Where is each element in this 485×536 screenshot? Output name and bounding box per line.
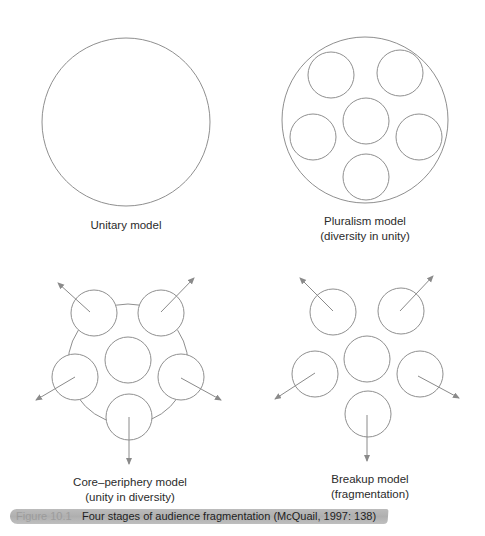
fragment-circle [378,288,424,334]
pluralism-subgroup-circle [308,52,354,98]
fragment-circle [344,336,390,382]
unitary-model-diagram [42,38,210,206]
core-periphery-model-label: Core–periphery model (unity in diversity… [60,475,200,505]
periphery-circle [158,354,204,400]
breakup-model-subtitle: (fragmentation) [310,487,430,502]
pluralism-subgroup-circle [343,154,389,200]
arrow-icon [275,373,315,399]
core-circle [105,337,151,383]
breakup-model-label: Breakup model (fragmentation) [310,472,430,502]
unitary-circle [42,38,210,206]
pluralism-model-title: Pluralism model [305,214,425,229]
fragment-circle [292,351,338,397]
fragment-circle [310,289,356,335]
arrow-icon [418,376,459,398]
arrow-icon [400,276,433,311]
pluralism-model-subtitle: (diversity in unity) [305,229,425,244]
pluralism-model-diagram [282,37,448,203]
audience-fragmentation-diagram [0,0,485,536]
core-periphery-model-title: Core–periphery model [60,475,200,490]
periphery-circle [71,290,117,336]
periphery-circle [138,290,184,336]
arrow-icon [300,278,333,311]
breakup-model-title: Breakup model [310,472,430,487]
figure-number: Figure 10.1 [16,510,72,522]
breakup-model-diagram [275,276,459,461]
figure-caption: Four stages of audience fragmentation (M… [82,510,376,522]
pluralism-subgroup-circle [377,50,423,96]
pluralism-model-label: Pluralism model (diversity in unity) [305,214,425,244]
pluralism-subgroup-circle [343,98,389,144]
core-periphery-model-diagram [36,278,221,464]
fragment-circle [397,351,443,397]
unitary-model-label: Unitary model [66,218,186,233]
pluralism-subgroup-circle [290,114,336,160]
pluralism-outer-circle [282,37,448,203]
core-periphery-model-subtitle: (unity in diversity) [60,490,200,505]
pluralism-subgroup-circle [396,114,442,160]
fragment-circle [345,391,391,437]
unitary-model-title: Unitary model [66,218,186,233]
